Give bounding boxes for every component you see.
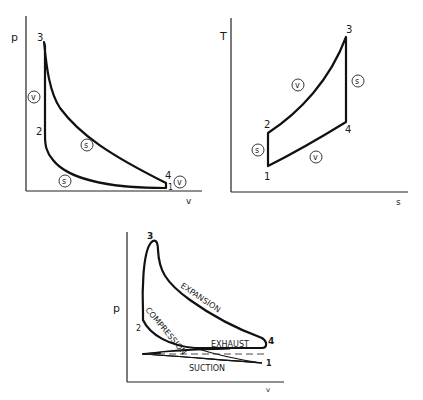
ts-mark-v-upper-text: v [295, 81, 300, 90]
pv-mark-s-lower-text: s [62, 177, 66, 186]
pv-point-2: 2 [36, 126, 42, 137]
ind-point-1: 1 [266, 359, 272, 368]
ind-point-2: 2 [136, 324, 141, 333]
ind-point-4: 4 [268, 336, 274, 346]
diagram-canvas: p v 3 2 4 1 v s s v T s 3 2 4 1 s v s v [0, 0, 423, 400]
ts-point-1: 1 [264, 171, 270, 182]
ind-exhaust-label: EXHAUST [211, 340, 249, 349]
pv-point-1: 1 [168, 183, 173, 192]
ts-diagram: T s 3 2 4 1 s v s v [219, 18, 408, 207]
ts-point-2: 2 [264, 119, 270, 130]
pv-diagram: p v 3 2 4 1 v s s v [11, 16, 202, 206]
pv-mark-s-upper-text: s [84, 141, 88, 150]
ind-x-label: v [266, 386, 270, 394]
pv-x-label: v [186, 196, 192, 206]
pv-mark-v-left-text: v [31, 93, 36, 102]
ts-mark-s-right-text: s [355, 77, 359, 86]
pv-cycle-curve [44, 42, 166, 188]
ts-point-4: 4 [345, 124, 351, 135]
pv-point-3: 3 [37, 32, 43, 43]
ts-y-label: T [219, 30, 227, 43]
ts-point-3: 3 [346, 24, 352, 35]
pv-point-4: 4 [165, 170, 171, 181]
ind-y-label: p [113, 302, 120, 315]
ts-mark-v-lower-text: v [313, 153, 318, 162]
ts-cycle-curve [268, 37, 346, 166]
ind-point-3: 3 [147, 231, 153, 241]
ind-suction-line [143, 354, 262, 363]
pv-mark-v-right-text: v [177, 178, 182, 187]
ts-x-label: s [396, 197, 401, 207]
ts-mark-s-left-text: s [255, 146, 259, 155]
ind-suction-label: SUCTION [189, 364, 225, 373]
pv-y-label: p [11, 31, 18, 44]
indicator-diagram: p v 3 2 4 1 EXPANSION COMPRESSION EXHAUS… [113, 231, 284, 394]
